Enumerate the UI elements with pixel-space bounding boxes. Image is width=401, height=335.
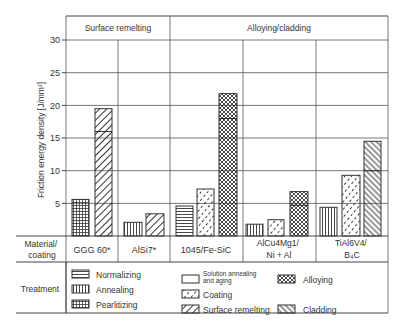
material-alcu-line1: AlCu4Mg1/	[257, 238, 300, 248]
material-tial-line1: TiAl6V4/	[335, 238, 367, 248]
legend-alloying: Alloying	[303, 275, 333, 285]
bar-tial-annealing	[320, 207, 337, 236]
header-row: Surface remelting Alloying/cladding	[66, 16, 388, 33]
bar-tial-cladding	[364, 141, 381, 236]
bar-alcu-annealing	[246, 224, 263, 236]
legend-cladding: Cladding	[303, 305, 337, 315]
y-tick-15: 15	[50, 133, 60, 143]
header-alloying-cladding: Alloying/cladding	[247, 23, 311, 33]
legend-normalizing: Normalizing	[96, 270, 141, 280]
row-label-material-line1: Material/	[25, 239, 58, 249]
bar-alsi7-surface-remelting	[146, 214, 164, 236]
bar-alcu-coating	[268, 220, 284, 236]
legend-solution-annealing: Solution annealing and aging	[203, 270, 258, 285]
row-label-material: Material/ coating	[25, 239, 60, 260]
header-surface-remelting: Surface remelting	[85, 23, 152, 33]
bar-1045-alloying	[219, 94, 237, 236]
material-tial: TiAl6V4/ B₄C	[335, 238, 369, 260]
material-row: Material/ coating GGG 60* AlSi7* 1045/Fe…	[16, 236, 388, 262]
legend-solution-annealing-line2: and aging	[203, 277, 232, 285]
y-axis: 30 25 20 15 10 5 Friction energy density…	[36, 35, 66, 209]
legend-swatch-surface-remelting	[182, 305, 199, 313]
legend: Treatment Normalizing Annealing Pearliti…	[16, 270, 388, 315]
legend-coating: Coating	[203, 290, 233, 300]
bar-alcu-alloying	[290, 192, 308, 236]
material-ggg60: GGG 60*	[73, 245, 111, 255]
legend-swatch-normalizing	[72, 270, 89, 278]
material-alcu-line2: Ni + Al	[267, 250, 292, 260]
legend-pearlitizing: Pearlitizing	[96, 300, 138, 310]
legend-swatch-pearlitizing	[72, 300, 89, 308]
y-axis-label: Friction energy density [J/mm²]	[36, 82, 46, 198]
bar-tial-coating	[342, 175, 360, 236]
row-label-treatment: Treatment	[21, 284, 60, 294]
material-tial-line2: B₄C	[344, 250, 359, 260]
legend-annealing: Annealing	[96, 285, 134, 295]
bar-1045-coating	[197, 189, 214, 236]
y-tick-20: 20	[50, 101, 60, 111]
material-alcu: AlCu4Mg1/ Ni + Al	[257, 238, 301, 260]
y-tick-25: 25	[50, 68, 60, 78]
legend-swatch-alloying	[278, 275, 295, 283]
y-tick-10: 10	[50, 166, 60, 176]
bar-ggg60-surface-remelting	[95, 109, 112, 236]
legend-surface-remelting: Surface remelting	[203, 305, 270, 315]
y-tick-30: 30	[50, 35, 60, 45]
material-alsi7: AlSi7*	[132, 245, 157, 255]
friction-energy-chart: Surface remelting Alloying/cladding 30 2…	[0, 0, 401, 335]
legend-swatch-solution-annealing	[182, 275, 199, 283]
bar-1045-normalizing	[176, 206, 193, 236]
legend-swatch-cladding	[278, 305, 295, 313]
material-1045: 1045/Fe-SiC	[181, 245, 232, 255]
bar-ggg60-pearlitizing	[72, 199, 89, 236]
legend-swatch-coating	[182, 290, 199, 298]
row-label-material-line2: coating	[28, 250, 56, 260]
bar-alsi7-annealing	[124, 222, 142, 236]
y-tick-5: 5	[55, 199, 60, 209]
legend-swatch-annealing	[72, 285, 89, 293]
